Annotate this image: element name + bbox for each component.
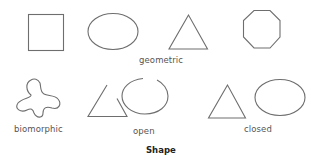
open-triangle-shape [88,85,127,117]
triangle-shape [169,15,208,49]
label-closed: closed [244,124,272,134]
figure-title: Shape [146,145,176,155]
label-geometric: geometric [139,55,183,65]
biomorphic-shape [17,79,60,117]
octagon-shape [244,11,281,49]
closed-ellipse-shape [255,80,305,116]
square-shape [29,15,64,51]
shape-diagram [0,0,315,165]
ellipse-shape [88,14,138,50]
label-biomorphic: biomorphic [14,124,63,134]
open-ellipse-shape [122,79,168,115]
closed-triangle-shape [209,85,246,118]
label-open: open [133,126,155,136]
